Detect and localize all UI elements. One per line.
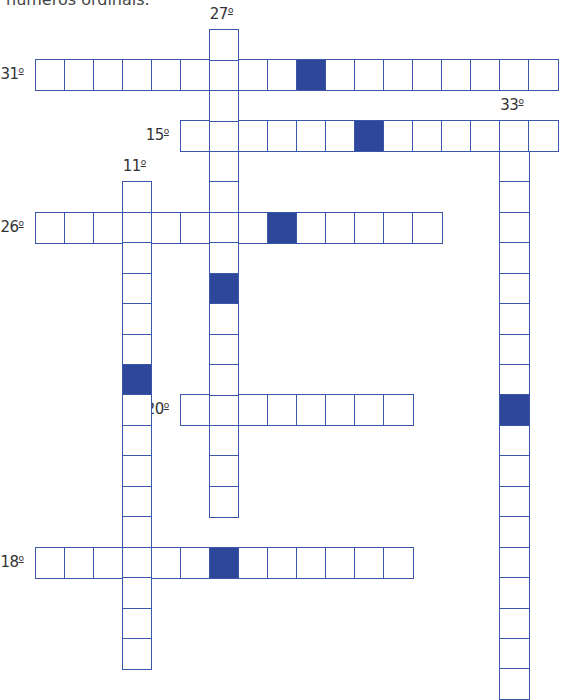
crossword-cell[interactable] xyxy=(151,212,182,244)
crossword-cell[interactable] xyxy=(354,394,385,426)
crossword-cell[interactable] xyxy=(499,273,530,305)
crossword-cell[interactable] xyxy=(122,486,153,518)
crossword-cell[interactable] xyxy=(122,59,153,91)
crossword-cell[interactable] xyxy=(122,273,153,305)
crossword-cell[interactable] xyxy=(209,90,240,122)
crossword-cell[interactable] xyxy=(209,364,240,396)
crossword-cell[interactable] xyxy=(354,212,385,244)
crossword-cell[interactable] xyxy=(441,59,472,91)
crossword-cell[interactable] xyxy=(499,425,530,457)
crossword-cell[interactable] xyxy=(122,516,153,548)
crossword-cell[interactable] xyxy=(470,59,501,91)
crossword-cell[interactable] xyxy=(354,547,385,579)
crossword-cell[interactable] xyxy=(296,212,327,244)
crossword-cell[interactable] xyxy=(267,547,298,579)
crossword-cell[interactable] xyxy=(180,120,211,152)
crossword-cell[interactable] xyxy=(238,394,269,426)
crossword-cell[interactable] xyxy=(325,120,356,152)
crossword-cell[interactable] xyxy=(528,59,559,91)
crossword-cell[interactable] xyxy=(122,212,153,244)
crossword-cell[interactable] xyxy=(499,486,530,518)
crossword-cell[interactable] xyxy=(499,242,530,274)
crossword-cell[interactable] xyxy=(354,59,385,91)
crossword-cell[interactable] xyxy=(499,334,530,366)
crossword-cell[interactable] xyxy=(151,59,182,91)
crossword-cell[interactable] xyxy=(209,303,240,335)
crossword-cell[interactable] xyxy=(122,638,153,670)
crossword-cell[interactable] xyxy=(499,151,530,183)
crossword-cell[interactable] xyxy=(122,547,153,579)
crossword-cell[interactable] xyxy=(383,394,414,426)
crossword-cell[interactable] xyxy=(325,212,356,244)
crossword-cell[interactable] xyxy=(209,486,240,518)
crossword-cell[interactable] xyxy=(180,394,211,426)
crossword-cell[interactable] xyxy=(412,59,443,91)
crossword-cell[interactable] xyxy=(209,394,240,426)
crossword-cell[interactable] xyxy=(209,242,240,274)
crossword-cell[interactable] xyxy=(238,212,269,244)
crossword-cell[interactable] xyxy=(267,394,298,426)
crossword-cell[interactable] xyxy=(383,120,414,152)
crossword-cell[interactable] xyxy=(499,303,530,335)
crossword-cell[interactable] xyxy=(122,334,153,366)
crossword-cell[interactable] xyxy=(499,212,530,244)
crossword-cell[interactable] xyxy=(122,394,153,426)
crossword-cell[interactable] xyxy=(209,212,240,244)
crossword-cell[interactable] xyxy=(499,638,530,670)
crossword-cell[interactable] xyxy=(383,212,414,244)
crossword-cell[interactable] xyxy=(499,608,530,640)
crossword-cell[interactable] xyxy=(64,212,95,244)
crossword-cell[interactable] xyxy=(35,547,66,579)
crossword-cell[interactable] xyxy=(499,59,530,91)
crossword-cell[interactable] xyxy=(499,668,530,700)
crossword-cell[interactable] xyxy=(151,547,182,579)
crossword-cell[interactable] xyxy=(383,59,414,91)
crossword-cell[interactable] xyxy=(499,547,530,579)
crossword-cell[interactable] xyxy=(499,364,530,396)
crossword-cell[interactable] xyxy=(209,425,240,457)
crossword-cell[interactable] xyxy=(528,120,559,152)
crossword-cell[interactable] xyxy=(122,577,153,609)
crossword-cell[interactable] xyxy=(441,120,472,152)
crossword-cell[interactable] xyxy=(180,59,211,91)
crossword-cell[interactable] xyxy=(325,59,356,91)
crossword-cell[interactable] xyxy=(383,547,414,579)
crossword-cell[interactable] xyxy=(267,59,298,91)
crossword-cell[interactable] xyxy=(209,29,240,61)
crossword-cell[interactable] xyxy=(209,334,240,366)
crossword-cell[interactable] xyxy=(209,120,240,152)
crossword-cell[interactable] xyxy=(267,120,298,152)
crossword-cell[interactable] xyxy=(238,547,269,579)
crossword-cell[interactable] xyxy=(209,455,240,487)
crossword-cell[interactable] xyxy=(470,120,501,152)
crossword-cell[interactable] xyxy=(238,120,269,152)
crossword-cell[interactable] xyxy=(209,151,240,183)
crossword-cell[interactable] xyxy=(64,59,95,91)
crossword-cell[interactable] xyxy=(238,59,269,91)
crossword-cell[interactable] xyxy=(122,303,153,335)
crossword-cell[interactable] xyxy=(93,212,124,244)
crossword-cell[interactable] xyxy=(122,455,153,487)
crossword-cell[interactable] xyxy=(122,608,153,640)
crossword-cell[interactable] xyxy=(180,547,211,579)
crossword-cell[interactable] xyxy=(499,455,530,487)
crossword-cell[interactable] xyxy=(122,181,153,213)
crossword-cell[interactable] xyxy=(325,547,356,579)
crossword-cell[interactable] xyxy=(325,394,356,426)
crossword-cell[interactable] xyxy=(64,547,95,579)
crossword-cell[interactable] xyxy=(209,59,240,91)
crossword-cell[interactable] xyxy=(296,394,327,426)
crossword-cell[interactable] xyxy=(93,547,124,579)
crossword-cell[interactable] xyxy=(296,120,327,152)
crossword-cell[interactable] xyxy=(35,212,66,244)
crossword-cell[interactable] xyxy=(35,59,66,91)
crossword-cell[interactable] xyxy=(499,516,530,548)
crossword-cell[interactable] xyxy=(93,59,124,91)
crossword-cell[interactable] xyxy=(499,120,530,152)
crossword-cell[interactable] xyxy=(209,181,240,213)
crossword-cell[interactable] xyxy=(499,181,530,213)
crossword-cell[interactable] xyxy=(499,577,530,609)
crossword-cell[interactable] xyxy=(180,212,211,244)
crossword-cell[interactable] xyxy=(296,547,327,579)
crossword-cell[interactable] xyxy=(412,212,443,244)
